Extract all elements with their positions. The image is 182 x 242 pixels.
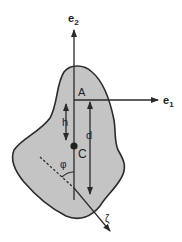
phi-label: φ xyxy=(60,159,67,170)
point-a-label: A xyxy=(78,86,86,98)
rigid-body-shape xyxy=(12,66,124,218)
d-label: d xyxy=(86,129,92,141)
rigid-body-diagram: e2 e1 A C h d φ ζ xyxy=(0,0,182,242)
h-label: h xyxy=(62,116,68,128)
e2-label: e2 xyxy=(68,12,79,27)
zeta-label: ζ xyxy=(105,213,110,225)
point-c-label: C xyxy=(78,147,87,161)
e1-label: e1 xyxy=(163,94,174,109)
center-of-mass-dot xyxy=(70,142,77,149)
